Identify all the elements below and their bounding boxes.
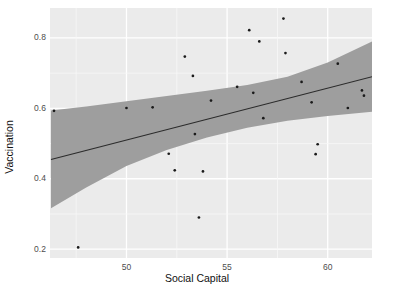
scatter-point (300, 81, 303, 84)
scatter-point (252, 92, 255, 95)
plot-svg (50, 8, 372, 258)
scatter-point (236, 86, 239, 89)
y-axis-title-text: Vaccination (3, 120, 15, 174)
scatter-point (361, 89, 364, 92)
scatter-point (210, 99, 213, 102)
y-tick-label: 0.8 (34, 32, 46, 42)
scatter-point (316, 143, 319, 146)
scatter-point (167, 152, 170, 155)
scatter-point (314, 153, 317, 156)
scatter-point (310, 101, 313, 104)
x-axis-title: Social Capital (0, 272, 394, 284)
confidence-band (51, 41, 372, 208)
scatter-point (262, 117, 265, 120)
scatter-point (173, 169, 176, 172)
y-tick-label: 0.2 (34, 244, 46, 254)
scatter-point (183, 55, 186, 58)
scatter-point (151, 106, 154, 109)
scatter-point (282, 17, 285, 20)
scatter-point (258, 40, 261, 43)
y-tick-label: 0.4 (34, 173, 46, 183)
x-tick-label: 50 (114, 262, 138, 272)
scatter-point (202, 170, 205, 173)
plot-panel (50, 8, 372, 258)
y-tick-label: 0.6 (34, 103, 46, 113)
scatter-point (198, 216, 201, 219)
scatter-point (53, 109, 56, 112)
scatter-point (347, 107, 350, 110)
scatter-point (77, 246, 80, 249)
scatter-point (125, 107, 128, 110)
chart-figure: 0.20.40.60.8 505560 Vaccination Social C… (0, 0, 394, 294)
y-axis-title: Vaccination (2, 0, 16, 294)
scatter-point (284, 52, 287, 55)
x-tick-label: 55 (215, 262, 239, 272)
scatter-point (248, 29, 251, 32)
x-tick-label: 60 (316, 262, 340, 272)
scatter-point (336, 62, 339, 65)
scatter-point (192, 75, 195, 78)
scatter-point (194, 133, 197, 136)
scatter-point (363, 94, 366, 97)
